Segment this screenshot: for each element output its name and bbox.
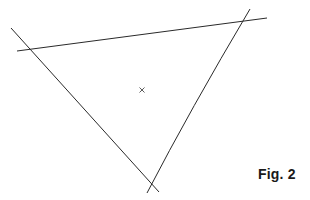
center-x-mark-icon xyxy=(140,88,145,93)
right-line xyxy=(147,9,250,193)
left-line xyxy=(11,28,159,192)
top-line xyxy=(17,18,267,51)
figure-caption: Fig. 2 xyxy=(258,166,296,182)
